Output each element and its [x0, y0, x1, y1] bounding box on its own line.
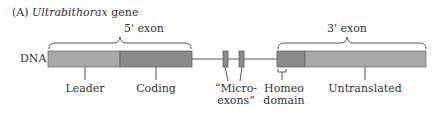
three-prime-exon-label: 3' exon: [307, 23, 387, 35]
homeo-label-line2: domain: [262, 95, 306, 107]
coding-label: Coding: [126, 83, 186, 95]
dna-row-label: DNA: [20, 53, 46, 65]
microexon-2: [239, 51, 244, 67]
homeo-bracket: [278, 69, 286, 80]
microexon-1-pointer: [225, 67, 228, 81]
microexon-2-pointer: [240, 67, 242, 81]
five-prime-brace: [49, 37, 191, 49]
leader-label: Leader: [55, 83, 115, 95]
microexon-1: [223, 51, 228, 67]
leader-segment: [48, 51, 120, 67]
coding-segment: [120, 51, 192, 67]
homeo-label: Homeo domain: [262, 83, 306, 107]
homeo-segment: [277, 51, 305, 67]
five-prime-exon-label: 5' exon: [104, 23, 184, 35]
untranslated-label: Untranslated: [325, 83, 405, 95]
three-prime-brace: [278, 37, 426, 49]
microexons-label: “Micro- exons”: [211, 83, 261, 107]
microexons-label-line2: exons”: [211, 95, 261, 107]
untranslated-segment: [305, 51, 426, 67]
